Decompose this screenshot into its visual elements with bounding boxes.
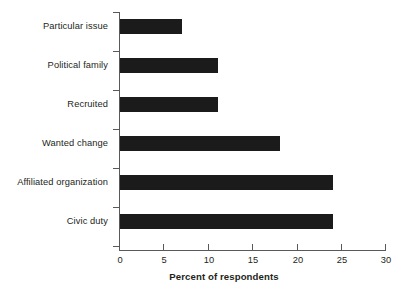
y-axis-tick — [113, 129, 119, 130]
x-axis-tick-label-0: 0 — [117, 255, 122, 266]
y-axis-line — [119, 12, 120, 251]
bar-civic-duty — [120, 214, 333, 229]
category-label-affiliated-organization: Affiliated organization — [0, 177, 108, 188]
x-axis-tick — [385, 244, 386, 251]
bar-political-family — [120, 58, 218, 73]
x-axis-tick — [252, 244, 253, 251]
x-axis-tick-label-15: 15 — [248, 255, 258, 266]
x-axis-title-text: Percent of respondents — [169, 271, 278, 282]
x-axis-tick-label-20: 20 — [293, 255, 303, 266]
bar-particular-issue — [120, 19, 182, 34]
category-label-political-family: Political family — [0, 60, 108, 71]
x-axis-title: Percent of respondents — [0, 271, 408, 282]
category-label-recruited: Recruited — [0, 99, 108, 110]
y-axis-tick — [113, 207, 119, 208]
x-axis-tick-label-25: 25 — [337, 255, 347, 266]
category-label-civic-duty: Civic duty — [0, 216, 108, 227]
x-axis-tick — [341, 244, 342, 251]
plot-area — [120, 12, 386, 250]
bar-chart: Particular issue Political family Recrui… — [0, 0, 408, 294]
x-axis-tick-label-10: 10 — [204, 255, 214, 266]
x-axis-tick — [208, 244, 209, 251]
y-axis-tick — [113, 12, 119, 13]
bar-recruited — [120, 97, 218, 112]
category-label-particular-issue: Particular issue — [0, 21, 108, 32]
x-axis-tick — [163, 244, 164, 251]
y-axis-tick — [113, 51, 119, 52]
x-axis-tick — [297, 244, 298, 251]
category-axis-labels: Particular issue Political family Recrui… — [0, 0, 114, 294]
y-axis-tick — [113, 168, 119, 169]
bar-wanted-change — [120, 136, 280, 151]
x-axis-tick — [119, 244, 120, 251]
bar-affiliated-organization — [120, 175, 333, 190]
y-axis-tick — [113, 90, 119, 91]
x-axis-tick-label-5: 5 — [161, 255, 166, 266]
x-axis-tick-label-30: 30 — [381, 255, 391, 266]
category-label-wanted-change: Wanted change — [0, 138, 108, 149]
